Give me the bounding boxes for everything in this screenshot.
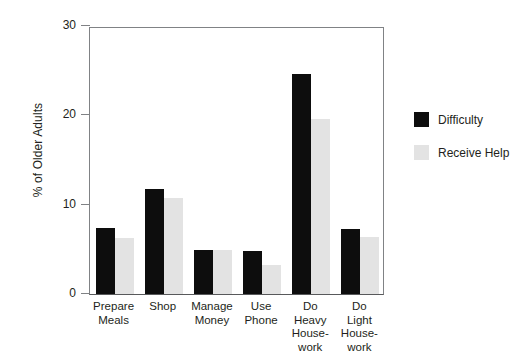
x-axis-category-label-line: Money [187, 314, 236, 328]
x-axis-category-label: DoHeavyHouse-work [286, 300, 335, 354]
y-axis-tick: 30 [81, 25, 90, 26]
y-axis-tick-label: 0 [69, 285, 76, 301]
x-axis-category-label-line: Meals [89, 314, 138, 328]
plot-area: 0102030 [89, 27, 384, 295]
bar-group [243, 28, 281, 294]
bar [194, 250, 213, 294]
x-axis-category-label: UsePhone [237, 300, 286, 327]
y-axis-title: % of Older Adults [28, 0, 48, 300]
bar [164, 198, 183, 294]
legend-label: Receive Help [438, 146, 509, 160]
bar-series-container [90, 28, 383, 294]
y-axis-tick-label: 10 [63, 196, 76, 212]
bar [360, 237, 379, 294]
bar [96, 228, 115, 294]
x-axis-category-label-line: Use [237, 300, 286, 314]
bar [262, 265, 281, 294]
bar-group [194, 28, 232, 294]
x-axis-category-label-line: Phone [237, 314, 286, 328]
bar [341, 229, 360, 294]
x-axis-category-label: PrepareMeals [89, 300, 138, 327]
y-axis-tick-label: 20 [63, 106, 76, 122]
bar-group [96, 28, 134, 294]
bar-group [145, 28, 183, 294]
x-axis-category-label: DoLightHouse-work [335, 300, 384, 354]
legend-item: Receive Help [414, 145, 520, 160]
y-axis-tick: 20 [81, 114, 90, 115]
x-axis-category-label-line: work [335, 341, 384, 355]
bar [115, 238, 134, 294]
x-axis-category-label-line: Manage [187, 300, 236, 314]
y-axis-tick-label: 30 [63, 17, 76, 33]
x-axis-category-label-line: Shop [138, 300, 187, 314]
x-axis-category-label-line: Do [286, 300, 335, 314]
legend-label: Difficulty [438, 113, 483, 127]
bar [243, 251, 262, 294]
bar [145, 189, 164, 294]
legend-swatch-icon [414, 112, 429, 127]
x-axis-category-label-line: work [286, 341, 335, 355]
x-axis-category-label-line: Light [335, 314, 384, 328]
x-axis-category-label: ManageMoney [187, 300, 236, 327]
bar-group [341, 28, 379, 294]
x-axis-category-label-line: House- [335, 327, 384, 341]
chart-legend: DifficultyReceive Help [414, 112, 520, 178]
y-axis-tick: 0 [81, 293, 90, 294]
bar-chart-figure: % of Older Adults 0102030 PrepareMealsSh… [0, 0, 521, 358]
legend-swatch-icon [414, 145, 429, 160]
bar [311, 119, 330, 294]
x-axis-category-label-line: Heavy [286, 314, 335, 328]
x-axis-category-label-line: Do [335, 300, 384, 314]
x-axis-category-label: Shop [138, 300, 187, 314]
bar [213, 250, 232, 294]
x-axis-category-label-line: Prepare [89, 300, 138, 314]
x-axis-category-label-line: House- [286, 327, 335, 341]
legend-item: Difficulty [414, 112, 520, 127]
bar-group [292, 28, 330, 294]
bar [292, 74, 311, 294]
y-axis-tick: 10 [81, 204, 90, 205]
